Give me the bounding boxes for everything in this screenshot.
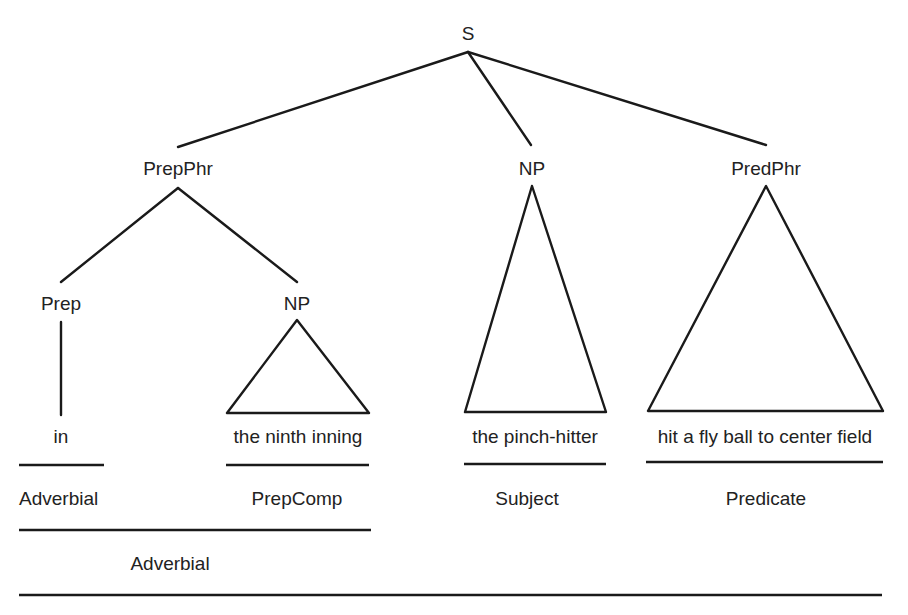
function-predicate: Predicate [726,488,806,509]
node-np-prepcomp: NP [284,293,310,314]
function-adverbial-phrase: Adverbial [130,553,209,574]
edges-root [178,52,766,147]
word-the-ninth-inning: the ninth inning [234,426,363,447]
edge-prepphr-prep [61,188,178,282]
node-prep: Prep [41,293,81,314]
edge-s-predphr [468,52,766,145]
triangle-np-subject [465,186,606,412]
syntax-tree-diagram: S PrepPhr NP PredPhr Prep NP in the nint… [0,0,908,615]
word-in: in [54,426,69,447]
edge-s-np [468,52,531,145]
edge-prepphr-np [178,188,297,282]
node-np-subject: NP [519,158,545,179]
function-prepcomp: PrepComp [252,488,343,509]
edge-s-prepphr [178,52,468,147]
node-predphr: PredPhr [731,158,801,179]
triangle-predphr [648,186,883,411]
triangle-np-prepcomp [227,320,369,413]
node-prepphr: PrepPhr [143,158,213,179]
word-hit-a-fly-ball: hit a fly ball to center field [658,426,872,447]
function-adverbial-prep: Adverbial [19,488,98,509]
function-subject: Subject [495,488,559,509]
edges-prepphr [61,188,297,282]
node-s: S [462,23,475,44]
word-the-pinch-hitter: the pinch-hitter [472,426,598,447]
